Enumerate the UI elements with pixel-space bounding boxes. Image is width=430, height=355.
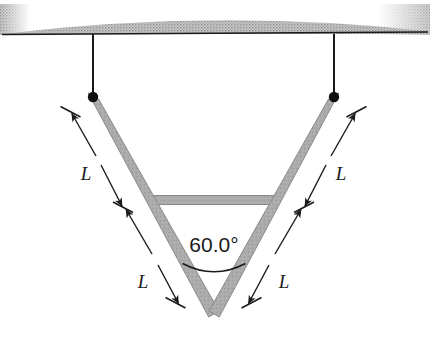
right-lower-dim-arrow-bottom (249, 265, 270, 304)
left-top-tick (61, 107, 81, 118)
rod-assembly (88, 93, 339, 317)
left-lower-length-label: L (137, 271, 149, 292)
right-upper-dim-arrow-top (331, 114, 355, 157)
right-mid-tick (294, 202, 314, 213)
suspension-strings (93, 34, 334, 97)
right-upper-length-label: L (335, 163, 347, 184)
right-pivot-point (329, 92, 339, 102)
left-pivot-point (88, 92, 98, 102)
physics-diagram-figure: 60.0° L L L (0, 0, 430, 355)
crossbar-rod (150, 196, 278, 205)
left-dimension-group: L L (61, 107, 186, 309)
left-lower-dim-arrow-top (126, 210, 152, 255)
right-lower-length-label: L (278, 271, 290, 292)
left-mid-tick (113, 202, 133, 213)
diagram-canvas: 60.0° L L L (0, 0, 430, 355)
left-lower-dim-arrow-bottom (158, 265, 179, 304)
right-top-tick (347, 107, 367, 118)
ceiling-hatch-band (0, 4, 430, 35)
right-upper-dim-arrow-bottom (305, 165, 326, 206)
ceiling-group (0, 4, 430, 35)
crossbar-body (150, 196, 278, 205)
right-lower-dim-arrow-top (275, 210, 301, 255)
left-upper-length-label: L (80, 163, 92, 184)
right-dimension-group: L L (242, 107, 367, 309)
pivot-points (88, 92, 339, 102)
left-upper-dim-arrow-top (72, 114, 96, 157)
angle-label: 60.0° (189, 233, 238, 256)
left-upper-dim-arrow-bottom (101, 165, 122, 206)
